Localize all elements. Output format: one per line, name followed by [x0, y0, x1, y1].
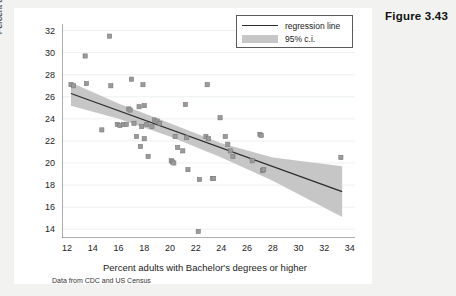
y-tick-label: 16: [31, 203, 55, 211]
figure-container: Figure 3.43 Percent adults smoking 14161…: [0, 0, 456, 296]
x-tick-label: 16: [106, 244, 132, 253]
x-tick-label: 12: [54, 244, 80, 253]
x-tick-label: 18: [131, 244, 157, 253]
y-axis-label: Percent adults smoking: [0, 0, 4, 60]
x-tick-label: 26: [234, 244, 260, 253]
data-markers: [69, 34, 343, 233]
x-tick-label: 28: [260, 244, 286, 253]
legend: regression line 95% c.i.: [236, 15, 353, 48]
confidence-band: [71, 82, 342, 217]
legend-item-confidence-band: 95% c.i.: [241, 32, 348, 45]
source-note: Data from CDC and US Census: [52, 277, 151, 284]
y-tick-label: 32: [31, 27, 55, 35]
legend-label-confidence-band: 95% c.i.: [285, 34, 315, 44]
x-tick-label: 34: [337, 244, 363, 253]
y-tick-label: 24: [31, 115, 55, 123]
y-tick-label: 28: [31, 71, 55, 79]
x-tick-label: 24: [208, 244, 234, 253]
y-tick-label: 18: [31, 181, 55, 189]
x-tick-label: 20: [157, 244, 183, 253]
regression-line-key: [241, 20, 279, 31]
x-tick-label: 14: [80, 244, 106, 253]
plot-area: [62, 24, 355, 238]
y-tick-label: 14: [31, 225, 55, 233]
legend-item-regression-line: regression line: [241, 19, 348, 32]
x-axis-label: Percent adults with Bachelor's degrees o…: [40, 262, 370, 273]
y-tick-label: 22: [31, 137, 55, 145]
y-tick-label: 30: [31, 49, 55, 57]
y-tick-label: 26: [31, 93, 55, 101]
scatter-plot-svg: [62, 24, 355, 238]
legend-label-regression-line: regression line: [285, 21, 340, 31]
x-tick-label: 30: [285, 244, 311, 253]
x-tick-label: 32: [311, 244, 337, 253]
y-tick-label: 20: [31, 159, 55, 167]
regression-line: [71, 93, 342, 191]
x-tick-label: 22: [183, 244, 209, 253]
axis-lines: [62, 24, 355, 238]
confidence-band-key: [241, 33, 279, 44]
figure-caption: Figure 3.43: [385, 10, 448, 22]
